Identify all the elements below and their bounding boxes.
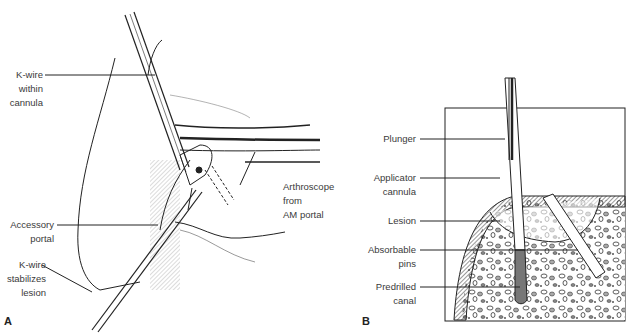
label-plunger: Plunger [340,132,416,146]
label-applicator-cannula: Applicator cannula [340,171,416,199]
label-line: within [5,82,43,96]
label-line: Applicator [340,171,416,185]
illustration-canvas [0,0,630,335]
label-line: Accessory [0,218,54,232]
label-kwire-within-cannula: K-wire within cannula [5,68,43,110]
label-line: portal [0,232,54,246]
panel-b-drawing [445,78,625,321]
label-line: Lesion [340,214,416,228]
label-kwire-stabilizes-lesion: K-wire stabilizes lesion [0,258,46,300]
panel-letter-a: A [4,315,12,327]
label-absorbable-pins: Absorbable pins [340,243,416,271]
label-line: stabilizes [0,272,46,286]
panel-letter-b: B [362,315,370,327]
label-predrilled-canal: Predrilled canal [340,280,416,308]
label-line: Plunger [340,132,416,146]
panel-a-drawing [78,12,320,332]
label-accessory-portal: Accessory portal [0,218,54,246]
label-line: Predrilled [340,280,416,294]
label-line: cannula [340,185,416,199]
label-line: Absorbable [340,243,416,257]
label-line: cannula [5,96,43,110]
label-lesion: Lesion [340,214,416,228]
label-line: K-wire [5,68,43,82]
label-line: K-wire [0,258,46,272]
label-line: lesion [0,286,46,300]
panel-a-leaders [42,75,158,292]
label-line: pins [340,257,416,271]
label-line: canal [340,294,416,308]
